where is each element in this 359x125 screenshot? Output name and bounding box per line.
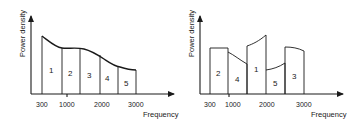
left-tick-300: 300 [36,101,48,108]
right-band-1: 1 [254,65,259,74]
left-band-5: 5 [124,79,129,88]
right-band-4-outline [228,52,247,94]
left-band-lines [42,36,136,94]
right-band-5: 5 [273,79,278,88]
left-band-2: 2 [68,69,73,78]
right-band-2: 2 [216,69,221,78]
right-tick-3000: 3000 [296,101,312,108]
left-band-1: 1 [49,66,54,75]
right-tick-2000: 2000 [259,101,275,108]
right-band-4: 4 [235,75,240,84]
left-tick-2000: 2000 [94,101,110,108]
left-y-label: Power density [18,10,27,57]
left-chart: Power density 1 2 3 4 5 300 1000 2000 30… [18,10,179,119]
left-band-4: 4 [105,74,110,83]
left-band-3: 3 [87,71,92,80]
right-chart: Power density 2 4 1 5 3 300 1000 2000 30… [187,10,347,119]
left-tick-1000: 1000 [59,101,75,108]
right-y-label: Power density [187,10,196,57]
right-tick-1000: 1000 [225,101,241,108]
left-x-label: Frequency [143,110,179,119]
spectrum-diagram: Power density 1 2 3 4 5 300 1000 2000 30… [0,0,359,125]
right-band-3: 3 [292,72,297,81]
right-tick-300: 300 [204,101,216,108]
right-x-label: Frequency [311,110,347,119]
left-spectrum-curve [42,36,136,70]
left-tick-3000: 3000 [128,101,144,108]
right-band-3-outline [285,47,304,94]
